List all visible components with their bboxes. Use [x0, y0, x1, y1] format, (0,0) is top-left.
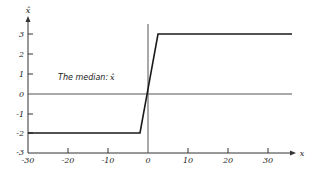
- median-curve: [28, 34, 292, 133]
- svg-text:30: 30: [263, 156, 273, 165]
- svg-text:1: 1: [19, 70, 24, 79]
- svg-text:0: 0: [145, 156, 150, 165]
- y-tick-labels: 3 2 1 0 -1 -2 -3: [16, 30, 24, 157]
- svg-text:10: 10: [183, 156, 193, 165]
- svg-text:2: 2: [18, 50, 24, 59]
- svg-text:-1: -1: [16, 110, 24, 119]
- svg-text:0: 0: [19, 90, 24, 99]
- svg-text:3: 3: [19, 30, 24, 39]
- y-axis-arrow-icon: [26, 16, 31, 22]
- svg-text:-30: -30: [22, 156, 35, 165]
- x-tick-labels: -30 -20 -10 0 10 20 30: [22, 156, 274, 165]
- svg-text:20: 20: [222, 156, 233, 165]
- median-annotation: The median:: [58, 73, 108, 82]
- x-axis-label: x: [300, 149, 305, 158]
- median-chart: 3 2 1 0 -1 -2 -3 -30 -20 -10 0 10 20 30 …: [0, 0, 314, 178]
- x-axis-arrow-icon: [290, 151, 296, 156]
- svg-text:-10: -10: [102, 156, 115, 165]
- svg-text:-20: -20: [62, 156, 75, 165]
- svg-text:-2: -2: [16, 129, 24, 138]
- x-ticks: [68, 148, 268, 153]
- median-annotation-symbol: x̂: [110, 73, 115, 82]
- y-axis-label: x̂: [26, 6, 31, 15]
- y-ticks: [28, 34, 33, 133]
